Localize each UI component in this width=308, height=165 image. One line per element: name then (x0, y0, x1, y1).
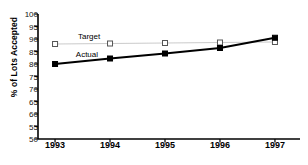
series-annotation-target: Target (78, 32, 100, 41)
x-axis-tick-label: 1996 (198, 140, 242, 150)
x-axis-tick-label: 1994 (88, 140, 132, 150)
x-axis-tick-label: 1993 (33, 140, 77, 150)
x-axis-tick-label: 1995 (143, 140, 187, 150)
y-axis-tick-label: 60 (16, 110, 38, 119)
chart-container: % of Lots Accepted 505560657075808590951… (0, 0, 308, 165)
y-axis-tick-label: 55 (16, 122, 38, 131)
y-axis-tick-label: 80 (16, 60, 38, 69)
y-axis-tick-label: 65 (16, 97, 38, 106)
y-axis-tick-label: 75 (16, 72, 38, 81)
y-axis-tick-label: 85 (16, 47, 38, 56)
y-axis-tick-label: 70 (16, 85, 38, 94)
x-axis-tick-labels: 19931994199519961997 (0, 140, 308, 156)
y-axis-tick-label: 95 (16, 22, 38, 31)
axis-tick-marks (35, 14, 275, 143)
x-axis-tick-label: 1997 (253, 140, 297, 150)
y-axis-tick-label: 100 (16, 10, 38, 19)
y-axis-tick-label: 90 (16, 35, 38, 44)
series-annotation-actual: Actual (76, 49, 98, 58)
